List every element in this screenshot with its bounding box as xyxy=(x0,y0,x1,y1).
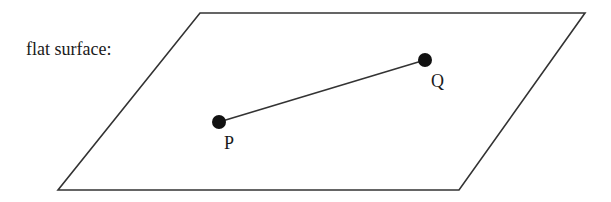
point-q-label: Q xyxy=(431,72,444,90)
diagram-canvas: flat surface: P Q xyxy=(0,0,611,202)
segment-p-to-q xyxy=(219,60,425,122)
point-p-label: P xyxy=(224,134,234,152)
flat-surface-parallelogram xyxy=(58,13,585,190)
diagram-svg xyxy=(0,0,611,202)
point-p-dot xyxy=(212,115,226,129)
point-q-dot xyxy=(418,53,432,67)
surface-label: flat surface: xyxy=(26,40,111,58)
